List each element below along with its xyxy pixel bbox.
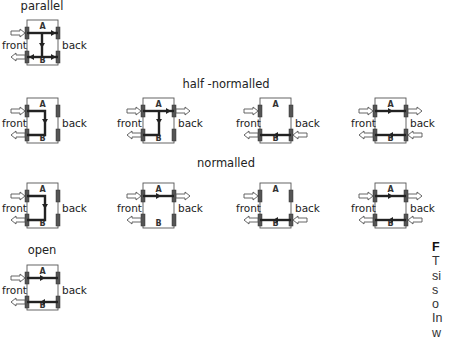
svg-text:A: A [387, 185, 394, 194]
diagram-normalled-4: A B [373, 183, 408, 228]
svg-text:A: A [155, 185, 162, 194]
diagram-half-normalled-4: A B [373, 98, 408, 143]
svg-text:front: front [2, 117, 27, 129]
svg-text:back: back [62, 202, 88, 214]
heading-open: open [28, 243, 57, 257]
svg-text:A: A [155, 100, 162, 109]
svg-text:A: A [39, 267, 46, 276]
svg-text:front: front [2, 202, 27, 214]
diagram-half-normalled-3: A B [258, 98, 293, 143]
svg-text:front: front [351, 117, 376, 129]
svg-text:back: back [410, 117, 436, 129]
diagram-normalled-3: A B [258, 183, 293, 228]
label-back: back [62, 39, 88, 51]
svg-text:front: front [351, 202, 376, 214]
svg-text:B: B [155, 219, 161, 228]
svg-text:A: A [39, 22, 46, 31]
heading-normalled: normalled [197, 156, 255, 170]
caption-title-fragment: F [432, 240, 440, 254]
svg-text:back: back [178, 117, 204, 129]
svg-text:front: front [2, 284, 27, 296]
svg-text:back: back [295, 117, 321, 129]
svg-text:back: back [410, 202, 436, 214]
diagram-normalled-2: A B [141, 183, 176, 228]
diagram-half-normalled-1: A B [25, 98, 60, 143]
heading-parallel: parallel [21, 0, 64, 13]
svg-text:front: front [236, 117, 261, 129]
svg-text:back: back [295, 202, 321, 214]
svg-text:back: back [178, 202, 204, 214]
svg-text:A: A [272, 185, 279, 194]
svg-text:front: front [236, 202, 261, 214]
svg-text:A: A [387, 100, 394, 109]
svg-text:front: front [117, 117, 142, 129]
diagram-normalled-1: A B [25, 183, 60, 228]
caption-fragment: F T si s o In w [432, 240, 442, 340]
diagram-half-normalled-2: A B [141, 98, 176, 143]
svg-text:A: A [272, 100, 279, 109]
svg-text:back: back [62, 117, 88, 129]
svg-text:back: back [62, 284, 88, 296]
diagram-open: A B [25, 265, 60, 310]
svg-text:front: front [117, 202, 142, 214]
heading-half-normalled: half -normalled [182, 77, 269, 91]
svg-text:A: A [39, 100, 46, 109]
label-front: front [2, 39, 27, 51]
svg-text:A: A [39, 185, 46, 194]
diagram-parallel: A B [25, 20, 60, 65]
